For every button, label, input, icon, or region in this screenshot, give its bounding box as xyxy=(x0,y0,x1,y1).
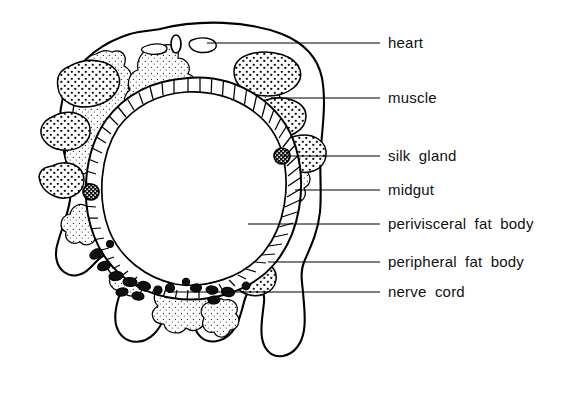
label-heart: heart xyxy=(388,35,423,50)
label-midgut: midgut xyxy=(388,182,434,197)
larva-cross-section-diagram xyxy=(0,0,588,408)
label-muscle: muscle xyxy=(388,90,437,105)
figure-root: heart muscle silk gland midgut perivisce… xyxy=(0,0,588,408)
label-perivisceral-fat-body: perivisceral fat body xyxy=(388,216,534,231)
label-silk-gland: silk gland xyxy=(388,148,457,163)
label-nerve-cord: nerve cord xyxy=(388,284,465,299)
label-peripheral-fat-body: peripheral fat body xyxy=(388,254,524,269)
